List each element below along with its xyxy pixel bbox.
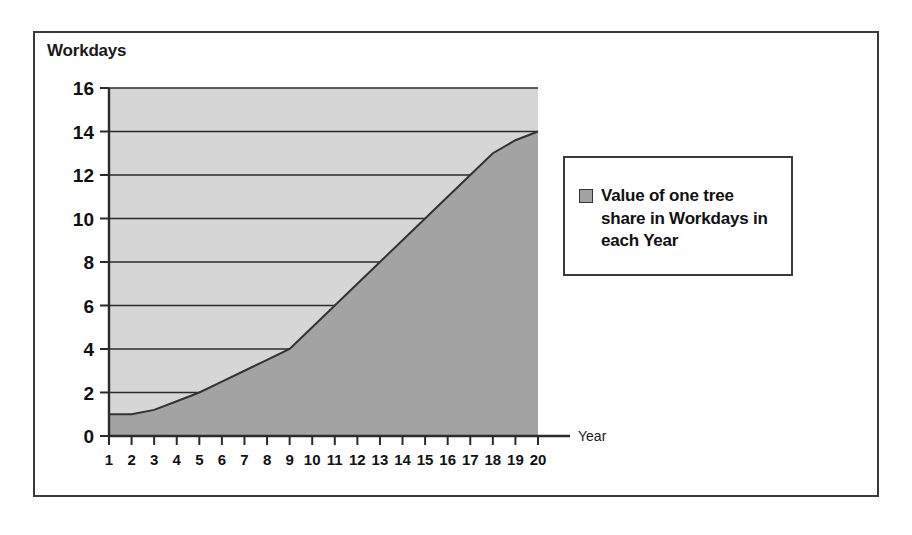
y-tick-label: 10	[73, 209, 94, 230]
x-tick-label: 10	[304, 451, 321, 468]
x-tick-label: 9	[285, 451, 293, 468]
x-axis-title: Year	[578, 428, 607, 444]
y-tick-label: 8	[83, 252, 94, 273]
y-tick-label: 6	[83, 296, 94, 317]
x-tick-label: 12	[349, 451, 366, 468]
chart-legend: Value of one tree share in Workdays in e…	[563, 156, 793, 276]
x-tick-label: 5	[195, 451, 203, 468]
x-tick-label: 16	[439, 451, 456, 468]
x-tick-label: 15	[417, 451, 434, 468]
y-tick-label: 4	[83, 339, 94, 360]
x-tick-label: 1	[105, 451, 113, 468]
y-tick-label: 16	[73, 78, 94, 99]
x-tick-label: 4	[173, 451, 182, 468]
x-tick-label: 6	[218, 451, 226, 468]
legend-swatch-icon	[579, 189, 593, 203]
y-tick-label: 14	[73, 122, 95, 143]
x-tick-label: 20	[530, 451, 547, 468]
x-tick-label: 2	[127, 451, 135, 468]
legend-item: Value of one tree share in Workdays in e…	[579, 185, 781, 253]
y-tick-label: 0	[83, 426, 94, 447]
x-tick-label: 7	[240, 451, 248, 468]
x-tick-label: 17	[462, 451, 479, 468]
x-tick-label: 8	[263, 451, 271, 468]
x-tick-label: 13	[372, 451, 389, 468]
x-tick-label: 3	[150, 451, 158, 468]
y-tick-label: 12	[73, 165, 94, 186]
y-tick-label: 2	[83, 383, 94, 404]
x-tick-label: 18	[484, 451, 501, 468]
x-tick-label: 19	[507, 451, 524, 468]
chart-figure: Workdays 0246810121416123456789101112131…	[33, 31, 879, 497]
legend-item-label: Value of one tree share in Workdays in e…	[601, 185, 781, 253]
x-tick-label: 11	[327, 451, 343, 468]
x-tick-label: 14	[394, 451, 411, 468]
